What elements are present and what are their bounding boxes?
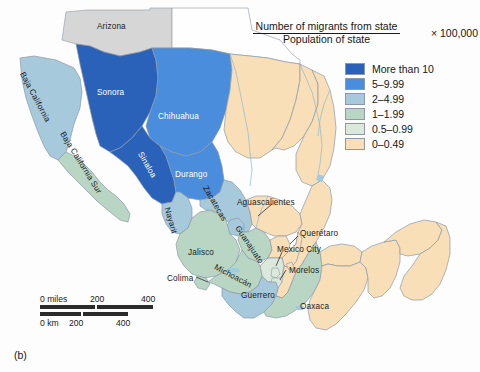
legend-row: More than 10 xyxy=(345,61,434,76)
map-figure: Arizona Baja CaliforniaBaja California S… xyxy=(0,0,480,372)
map-legend: More than 105–9.992–4.991–1.990.5–0.990–… xyxy=(345,61,434,151)
legend-row: 0–0.49 xyxy=(345,136,434,151)
scale-miles-bar xyxy=(40,305,153,309)
legend-swatch xyxy=(345,63,365,75)
legend-label: 0–0.49 xyxy=(372,138,404,150)
label-arizona: Arizona xyxy=(97,22,126,31)
scale-miles-mid: 200 xyxy=(90,294,104,304)
legend-label: 2–4.99 xyxy=(372,93,404,105)
legend-row: 1–1.99 xyxy=(345,106,434,121)
label-oaxaca: Oaxaca xyxy=(300,302,329,311)
legend-swatch xyxy=(345,78,365,90)
legend-swatch xyxy=(345,138,365,150)
label-colima: Colima xyxy=(167,274,193,283)
rate-fraction: Number of migrants from state Population… xyxy=(228,20,425,46)
legend-row: 0.5–0.99 xyxy=(345,121,434,136)
legend-label: 1–1.99 xyxy=(372,108,404,120)
label-quer-taro: Querétaro xyxy=(300,229,338,238)
label-mexico-city: Mexico City xyxy=(277,245,321,254)
map-title: Number of migrants from state Population… xyxy=(228,20,478,46)
label-chihuahua: Chihuahua xyxy=(158,112,199,121)
legend-swatch xyxy=(345,108,365,120)
legend-label: 5–9.99 xyxy=(372,78,404,90)
legend-label: More than 10 xyxy=(372,63,434,75)
scale-miles-end: 400 xyxy=(141,294,155,304)
scale-bars: 0 miles 200 400 0 km 200 400 xyxy=(40,294,170,329)
rate-multiplier: × 100,000 xyxy=(431,27,478,39)
scale-km-bar xyxy=(40,312,128,316)
scale-km: 0 km 200 400 xyxy=(40,312,170,329)
label-sonora: Sonora xyxy=(97,88,124,97)
scale-km-end: 400 xyxy=(116,318,130,328)
scale-km-zero: 0 km xyxy=(40,318,59,328)
scale-miles-zero: 0 miles xyxy=(40,294,67,304)
label-guerrero: Guerrero xyxy=(241,291,275,300)
legend-row: 2–4.99 xyxy=(345,91,434,106)
label-morelos: Morelos xyxy=(289,266,319,275)
label-aguascalientes: Aguascalientes xyxy=(237,198,295,207)
legend-label: 0.5–0.99 xyxy=(372,123,413,135)
scale-miles: 0 miles 200 400 xyxy=(40,294,170,309)
fraction-denominator: Population of state xyxy=(280,32,373,45)
figure-label: (b) xyxy=(14,349,27,361)
legend-swatch xyxy=(345,93,365,105)
legend-swatch xyxy=(345,123,365,135)
legend-row: 5–9.99 xyxy=(345,76,434,91)
label-jalisco: Jalisco xyxy=(188,248,214,257)
label-durango: Durango xyxy=(175,170,207,179)
scale-km-mid: 200 xyxy=(69,318,83,328)
